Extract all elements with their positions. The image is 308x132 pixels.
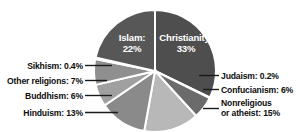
slice-label-christianity-value: 33% xyxy=(153,43,219,54)
callout-confucianism: Confucianism: 6% xyxy=(221,85,293,95)
callout-other-religions: Other religions: 7% xyxy=(0,76,83,86)
slice-label-islam-name: Islam: xyxy=(119,32,146,43)
callout-nonreligious-line2: or atheist: 15% xyxy=(221,108,280,118)
slice-label-christianity: Christianity: 33% xyxy=(153,32,219,54)
pie-chart-figure: Islam: 22% Christianity: 33% Sikhism: 0.… xyxy=(0,0,308,132)
slice-label-christianity-name: Christianity: xyxy=(159,32,212,43)
pie-slices-group xyxy=(94,10,216,132)
callout-nonreligious: Nonreligious or atheist: 15% xyxy=(221,98,280,118)
callout-hinduism: Hinduism: 13% xyxy=(0,108,83,118)
callout-nonreligious-line1: Nonreligious xyxy=(221,98,272,108)
callout-judaism: Judaism: 0.2% xyxy=(221,71,279,81)
callout-sikhism: Sikhism: 0.4% xyxy=(0,61,83,71)
callout-buddhism: Buddhism: 6% xyxy=(0,91,83,101)
